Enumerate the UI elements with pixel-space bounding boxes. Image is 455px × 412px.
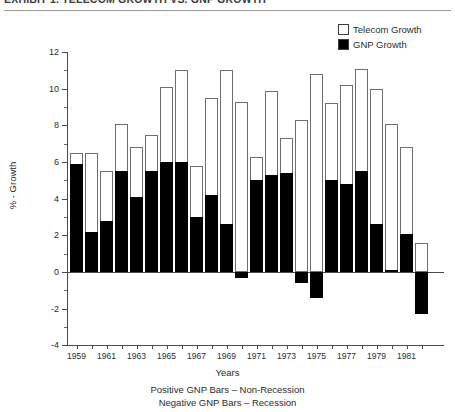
x-tick-1959 — [77, 345, 78, 349]
bar-gnp-1968[interactable] — [205, 195, 218, 272]
x-tick-label-1967: 1967 — [182, 351, 212, 361]
y-minor-tick — [64, 70, 67, 71]
y-minor-tick — [64, 107, 67, 108]
x-tick-label-1969: 1969 — [212, 351, 242, 361]
bar-telecom-1982[interactable] — [415, 243, 428, 272]
bar-gnp-1959[interactable] — [70, 164, 83, 272]
bar-gnp-1970[interactable] — [235, 272, 248, 278]
footnote-recession: Negative GNP Bars – Recession — [0, 397, 455, 408]
x-tick-1967 — [197, 345, 198, 349]
y-minor-tick — [64, 180, 67, 181]
y-minor-tick — [64, 217, 67, 218]
y-tick-0 — [62, 272, 67, 273]
x-tick-1972 — [272, 345, 273, 349]
y-tick-label-0: 0 — [33, 268, 59, 277]
chart-plot-area: 121086420-2-4 19591961196319651967196919… — [0, 0, 455, 412]
x-tick-label-1963: 1963 — [122, 351, 152, 361]
x-tick-1979 — [377, 345, 378, 349]
bar-gnp-1972[interactable] — [265, 175, 278, 272]
bar-gnp-1973[interactable] — [280, 173, 293, 272]
bar-gnp-1981[interactable] — [400, 234, 413, 273]
y-tick-label-12: 12 — [33, 48, 59, 57]
bar-gnp-1976[interactable] — [325, 180, 338, 272]
bar-gnp-1975[interactable] — [310, 272, 323, 298]
x-tick-1978 — [362, 345, 363, 349]
bar-gnp-1961[interactable] — [100, 221, 113, 272]
x-tick-1971 — [257, 345, 258, 349]
y-tick--4 — [62, 345, 67, 346]
x-tick-1964 — [152, 345, 153, 349]
y-tick-2 — [62, 235, 67, 236]
x-tick-label-1977: 1977 — [332, 351, 362, 361]
x-tick-label-1979: 1979 — [362, 351, 392, 361]
bar-telecom-1980[interactable] — [385, 124, 398, 273]
x-tick-1970 — [242, 345, 243, 349]
bar-telecom-1970[interactable] — [235, 102, 248, 273]
x-tick-1977 — [347, 345, 348, 349]
bar-gnp-1962[interactable] — [115, 171, 128, 272]
bar-gnp-1966[interactable] — [175, 162, 188, 272]
x-tick-label-1975: 1975 — [302, 351, 332, 361]
bar-gnp-1982[interactable] — [415, 272, 428, 314]
x-tick-1974 — [302, 345, 303, 349]
y-tick-label--2: -2 — [33, 305, 59, 314]
x-tick-1962 — [122, 345, 123, 349]
bar-gnp-1978[interactable] — [355, 171, 368, 272]
y-minor-tick — [64, 290, 67, 291]
x-tick-label-1959: 1959 — [62, 351, 92, 361]
bar-gnp-1974[interactable] — [295, 272, 308, 283]
x-tick-1968 — [212, 345, 213, 349]
y-tick-label--4: -4 — [33, 341, 59, 350]
y-tick-6 — [62, 162, 67, 163]
bar-gnp-1967[interactable] — [190, 217, 203, 272]
y-tick--2 — [62, 309, 67, 310]
bar-gnp-1963[interactable] — [130, 197, 143, 272]
bar-gnp-1964[interactable] — [145, 171, 158, 272]
bar-gnp-1969[interactable] — [220, 224, 233, 272]
x-tick-label-1961: 1961 — [92, 351, 122, 361]
bar-gnp-1965[interactable] — [160, 162, 173, 272]
y-minor-tick — [64, 144, 67, 145]
x-tick-1960 — [92, 345, 93, 349]
x-tick-1969 — [227, 345, 228, 349]
x-tick-label-1971: 1971 — [242, 351, 272, 361]
x-tick-1981 — [407, 345, 408, 349]
bar-gnp-1980[interactable] — [385, 270, 398, 272]
bar-gnp-1979[interactable] — [370, 224, 383, 272]
x-tick-label-1973: 1973 — [272, 351, 302, 361]
bar-telecom-1974[interactable] — [295, 120, 308, 272]
bar-gnp-1960[interactable] — [85, 232, 98, 272]
y-tick-10 — [62, 89, 67, 90]
bar-gnp-1977[interactable] — [340, 184, 353, 272]
bar-telecom-1975[interactable] — [310, 74, 323, 272]
x-tick-1976 — [332, 345, 333, 349]
bar-gnp-1971[interactable] — [250, 180, 263, 272]
y-tick-label-2: 2 — [33, 231, 59, 240]
x-tick-label-1981: 1981 — [392, 351, 422, 361]
y-tick-8 — [62, 125, 67, 126]
x-tick-1961 — [107, 345, 108, 349]
x-tick-label-1965: 1965 — [152, 351, 182, 361]
y-tick-label-8: 8 — [33, 121, 59, 130]
y-tick-label-4: 4 — [33, 195, 59, 204]
x-tick-1965 — [167, 345, 168, 349]
y-minor-tick — [64, 254, 67, 255]
x-tick-1966 — [182, 345, 183, 349]
x-tick-1963 — [137, 345, 138, 349]
y-tick-label-10: 10 — [33, 85, 59, 94]
y-tick-4 — [62, 199, 67, 200]
x-tick-1982 — [422, 345, 423, 349]
y-axis-title: % - Growth — [7, 151, 18, 221]
y-tick-label-6: 6 — [33, 158, 59, 167]
x-tick-1973 — [287, 345, 288, 349]
x-tick-1975 — [317, 345, 318, 349]
x-axis-title: Years — [0, 367, 455, 378]
y-axis-line — [67, 52, 68, 345]
x-axis-line — [67, 345, 444, 346]
x-tick-1980 — [392, 345, 393, 349]
footnote-non-recession: Positive GNP Bars – Non-Recession — [0, 384, 455, 395]
y-tick-12 — [62, 52, 67, 53]
y-minor-tick — [64, 327, 67, 328]
